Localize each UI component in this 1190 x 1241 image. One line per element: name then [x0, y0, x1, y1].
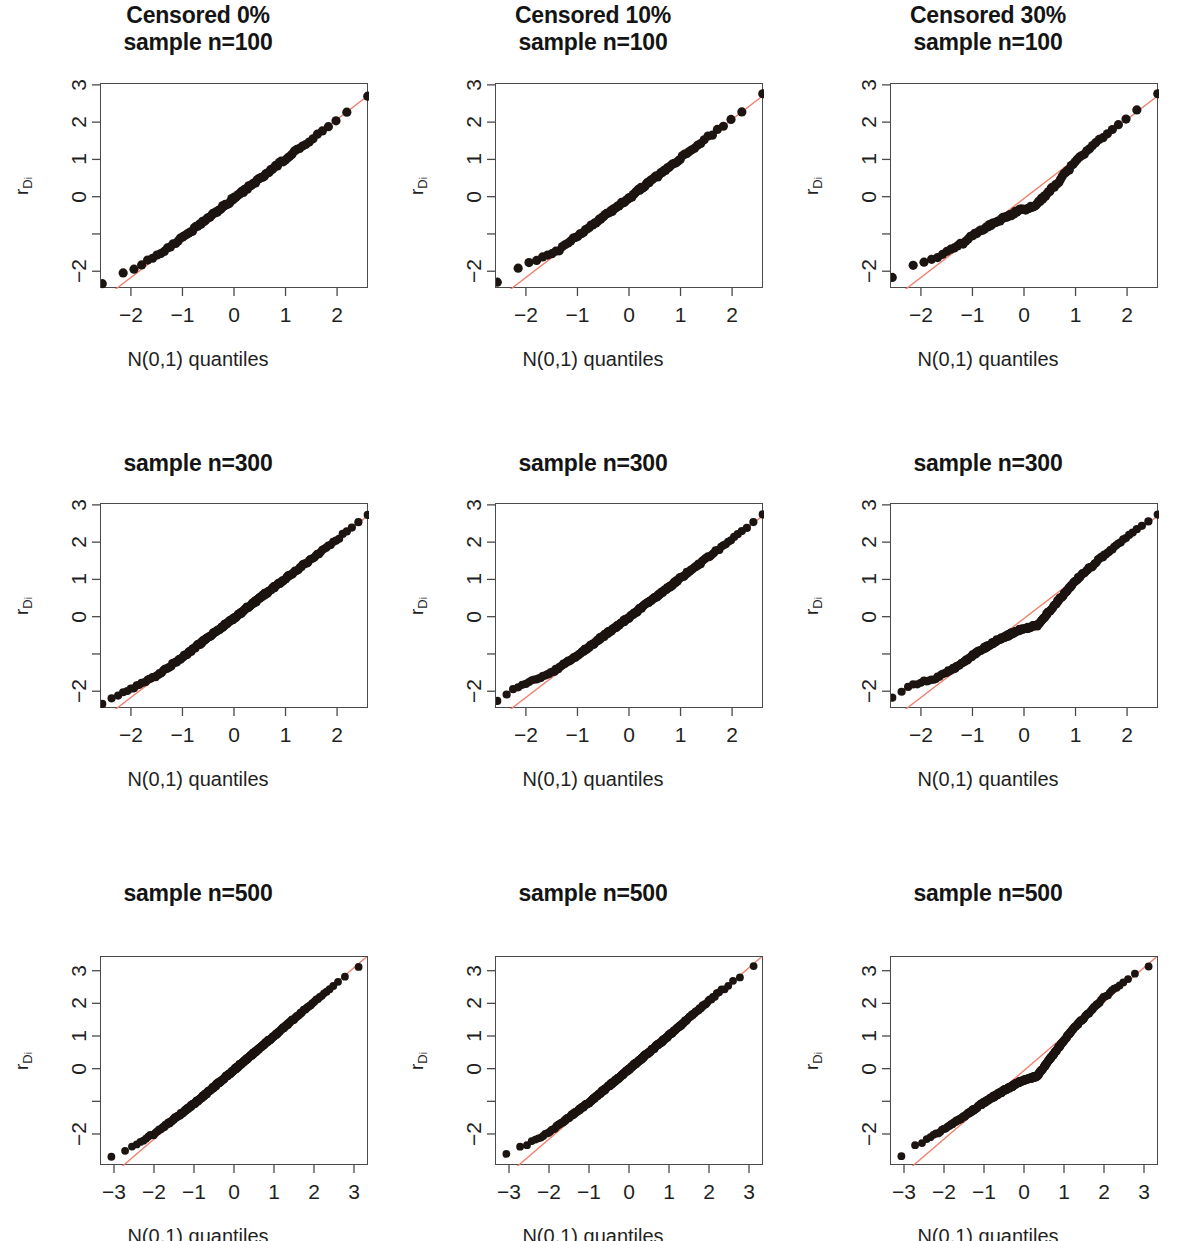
y-tick-label: 0 [858, 1063, 879, 1075]
x-tick-label: 2 [331, 304, 343, 325]
y-axis-label: rDi [801, 1052, 823, 1070]
reference-line [101, 504, 369, 709]
x-tick-label: 0 [1018, 724, 1030, 745]
x-tick-label: −2 [142, 1181, 166, 1202]
x-tick-label: 2 [1098, 1181, 1110, 1202]
x-tick-label: −1 [170, 304, 194, 325]
y-tick-label: −2 [68, 259, 89, 283]
y-tick-label: 3 [68, 965, 89, 977]
x-axis-label: N(0,1) quantiles [395, 768, 791, 791]
data-points [496, 510, 764, 705]
x-tick-label: 3 [1138, 1181, 1150, 1202]
x-tick-label: −1 [170, 724, 194, 745]
y-axis-label: rDi [406, 1052, 428, 1070]
data-points [891, 510, 1159, 701]
qq-panel-p10: sample n=300−2−1012−20123N(0,1) quantile… [0, 420, 396, 832]
y-tick-label: 3 [858, 499, 879, 511]
qq-panel-p01: Censored 10% sample n=100−2−1012−20123N(… [395, 0, 791, 412]
x-tick-label: −3 [892, 1181, 916, 1202]
y-tick-label: −2 [463, 1122, 484, 1146]
plot-area [495, 83, 763, 288]
qq-panel-p11: sample n=300−2−1012−20123N(0,1) quantile… [395, 420, 791, 832]
plot-area [890, 503, 1158, 708]
plot-area [100, 83, 368, 288]
x-tick-label: −1 [960, 724, 984, 745]
y-tick-label: 0 [858, 191, 879, 203]
y-axis-label-sub: D [415, 179, 430, 188]
y-axis-label-main: r [801, 1063, 822, 1069]
y-tick-label: 2 [463, 116, 484, 128]
y-axis-label-main: r [11, 608, 32, 614]
x-tick-label: 0 [228, 304, 240, 325]
y-tick-label: 0 [68, 191, 89, 203]
x-tick-label: 2 [726, 724, 738, 745]
data-points [502, 962, 757, 1158]
qq-scatter-canvas [101, 504, 369, 709]
y-tick-label: −2 [858, 1122, 879, 1146]
x-tick-label: 1 [1070, 304, 1082, 325]
y-axis-label-sub2: i [813, 1052, 824, 1054]
data-points [101, 511, 369, 708]
y-axis-label: rDi [801, 597, 823, 615]
x-axis-label: N(0,1) quantiles [790, 348, 1186, 371]
x-tick-label: 0 [623, 304, 635, 325]
y-axis-label: rDi [406, 177, 428, 195]
y-tick-label: 2 [858, 536, 879, 548]
y-axis-label-sub: D [20, 1054, 35, 1063]
qq-scatter-canvas [891, 84, 1159, 289]
x-tick-label: 0 [623, 1181, 635, 1202]
panel-title: sample n=500 [790, 880, 1186, 907]
x-tick-label: −2 [909, 304, 933, 325]
y-axis-label: rDi [801, 177, 823, 195]
x-tick-label: −3 [497, 1181, 521, 1202]
y-tick-label: 0 [68, 1063, 89, 1075]
x-axis-label: N(0,1) quantiles [0, 768, 396, 791]
data-points [496, 89, 764, 287]
qq-plot-figure: Censored 0% sample n=100−2−1012−20123N(0… [0, 0, 1190, 1241]
x-tick-label: 0 [623, 724, 635, 745]
qq-scatter-canvas [101, 84, 369, 289]
y-axis-label-main: r [406, 1063, 427, 1069]
x-tick-label: 3 [348, 1181, 360, 1202]
y-axis-label-sub: D [415, 599, 430, 608]
x-tick-label: −2 [537, 1181, 561, 1202]
panel-title: sample n=300 [395, 450, 791, 477]
y-tick-label: 1 [858, 574, 879, 586]
x-tick-label: −2 [514, 304, 538, 325]
x-tick-label: 2 [308, 1181, 320, 1202]
x-tick-label: −1 [972, 1181, 996, 1202]
y-axis-label-sub: D [810, 179, 825, 188]
x-tick-label: 2 [1121, 724, 1133, 745]
x-tick-label: 1 [280, 304, 292, 325]
qq-panel-p12: sample n=300−2−1012−20123N(0,1) quantile… [790, 420, 1186, 832]
y-tick-label: 0 [463, 191, 484, 203]
y-axis-label-sub2: i [23, 1052, 34, 1054]
x-tick-label: 1 [675, 724, 687, 745]
y-tick-label: 2 [463, 998, 484, 1010]
plot-area [495, 503, 763, 708]
x-axis-label: N(0,1) quantiles [790, 768, 1186, 791]
y-tick-label: 1 [68, 154, 89, 166]
x-tick-label: 2 [726, 304, 738, 325]
y-axis-label: rDi [11, 597, 33, 615]
y-tick-label: 3 [858, 965, 879, 977]
x-axis-label: N(0,1) quantiles [790, 1225, 1186, 1241]
x-tick-label: −1 [182, 1181, 206, 1202]
x-tick-label: 2 [703, 1181, 715, 1202]
y-tick-label: −2 [858, 679, 879, 703]
qq-panel-p21: sample n=500−3−2−10123−20123N(0,1) quant… [395, 850, 791, 1241]
y-axis-label: rDi [406, 597, 428, 615]
x-tick-label: 0 [228, 724, 240, 745]
x-tick-label: 1 [675, 304, 687, 325]
y-tick-label: 0 [463, 1063, 484, 1075]
y-axis-label-sub2: i [418, 1052, 429, 1054]
x-tick-label: 1 [663, 1181, 675, 1202]
y-tick-label: 1 [858, 154, 879, 166]
y-axis-label: rDi [11, 1052, 33, 1070]
x-tick-label: −1 [565, 724, 589, 745]
y-axis-label-sub: D [415, 1054, 430, 1063]
y-tick-label: 3 [68, 79, 89, 91]
qq-panel-p20: sample n=500−3−2−10123−20123N(0,1) quant… [0, 850, 396, 1241]
y-axis-label-sub2: i [418, 597, 429, 599]
x-tick-label: 1 [268, 1181, 280, 1202]
